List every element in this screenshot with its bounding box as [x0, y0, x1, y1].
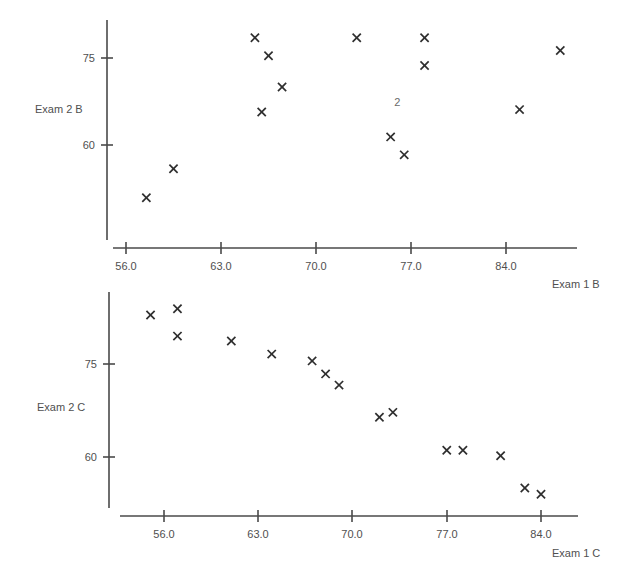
x-tick-label-63-bottom: 63.0 — [247, 528, 268, 540]
data-point — [321, 370, 329, 378]
data-point — [335, 381, 343, 389]
y-tick-label-75-bottom: 75 — [85, 358, 97, 370]
data-point — [258, 108, 266, 116]
data-point — [443, 446, 451, 454]
data-point — [353, 34, 361, 42]
y-tick-label-75-top: 75 — [83, 52, 95, 64]
data-point — [146, 311, 154, 319]
data-point — [521, 484, 529, 492]
x-tick-label-70-bottom: 70.0 — [341, 528, 362, 540]
x-tick-label-63-top: 63.0 — [210, 260, 231, 272]
data-point — [142, 194, 150, 202]
data-point — [515, 106, 523, 114]
x-axis-title-bottom: Exam 1 C — [552, 547, 600, 559]
data-point — [389, 408, 397, 416]
x-tick-label-77-top: 77.0 — [400, 260, 421, 272]
data-point-group-top — [142, 34, 564, 202]
x-axis-ticks-bottom: 56.0 63.0 70.0 77.0 84.0 — [153, 510, 551, 540]
data-point-group-bottom — [146, 305, 545, 499]
annotation-group-top: 2 — [394, 96, 400, 108]
data-point — [497, 452, 505, 460]
data-point — [420, 61, 428, 69]
data-point — [264, 52, 272, 60]
y-tick-label-60-bottom: 60 — [85, 451, 97, 463]
chart-panel-exam-b: 75 60 56.0 63.0 70.0 77.0 84.0 Exam 2 B … — [0, 0, 628, 295]
x-tick-label-56-bottom: 56.0 — [153, 528, 174, 540]
point-count-annotation: 2 — [394, 96, 400, 108]
data-point — [375, 413, 383, 421]
y-axis-title-top: Exam 2 B — [35, 103, 83, 115]
y-axis-ticks-top: 75 60 — [83, 52, 113, 151]
chart-panel-exam-c: 75 60 56.0 63.0 70.0 77.0 84.0 Exam 2 C … — [0, 285, 628, 575]
data-point — [556, 46, 564, 54]
data-point — [308, 357, 316, 365]
y-axis-title-bottom: Exam 2 C — [37, 401, 85, 413]
x-tick-label-70-top: 70.0 — [305, 260, 326, 272]
data-point — [227, 337, 235, 345]
data-point — [278, 83, 286, 91]
y-axis-ticks-bottom: 75 60 — [85, 358, 115, 463]
y-tick-label-60-top: 60 — [83, 139, 95, 151]
data-point — [268, 350, 276, 358]
x-tick-label-56-top: 56.0 — [115, 260, 136, 272]
chart-canvas-exam-b: 75 60 56.0 63.0 70.0 77.0 84.0 Exam 2 B … — [0, 0, 628, 295]
data-point — [420, 34, 428, 42]
data-point — [387, 133, 395, 141]
data-point — [173, 305, 181, 313]
data-point — [251, 34, 259, 42]
data-point — [169, 165, 177, 173]
x-tick-label-77-bottom: 77.0 — [436, 528, 457, 540]
x-tick-label-84-bottom: 84.0 — [530, 528, 551, 540]
data-point — [173, 332, 181, 340]
data-point — [537, 490, 545, 498]
x-tick-label-84-top: 84.0 — [495, 260, 516, 272]
scatterplot-figure: 75 60 56.0 63.0 70.0 77.0 84.0 Exam 2 B … — [0, 0, 628, 575]
data-point — [459, 446, 467, 454]
x-axis-ticks-top: 56.0 63.0 70.0 77.0 84.0 — [115, 242, 516, 272]
chart-canvas-exam-c: 75 60 56.0 63.0 70.0 77.0 84.0 Exam 2 C … — [0, 285, 628, 575]
data-point — [400, 151, 408, 159]
